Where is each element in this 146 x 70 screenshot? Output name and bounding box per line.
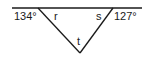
triangle-left-side: [38, 8, 80, 53]
angle-t-label: t: [77, 35, 80, 47]
angle-r-label: r: [54, 10, 58, 22]
triangle-diagram: 134° r s 127° t: [0, 0, 146, 70]
right-exterior-angle-label: 127°: [114, 10, 137, 22]
left-exterior-angle-label: 134°: [14, 10, 37, 22]
angle-s-label: s: [96, 10, 102, 22]
